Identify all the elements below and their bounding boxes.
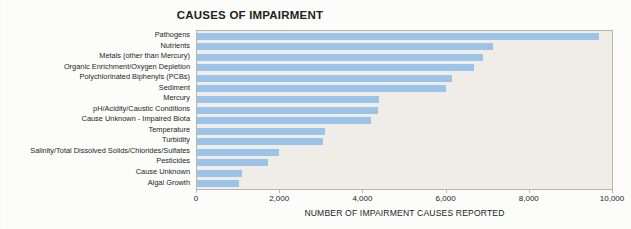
tick-label: 0 <box>194 194 198 203</box>
bar <box>197 43 493 50</box>
plot-area <box>196 30 613 190</box>
bar <box>197 96 379 103</box>
bar <box>197 117 371 124</box>
x-axis-title: NUMBER OF IMPAIRMENT CAUSES REPORTED <box>196 208 613 218</box>
tick-label: 2,000 <box>269 194 289 203</box>
tick-mark <box>446 190 447 193</box>
bar <box>197 75 452 82</box>
category-label: Turbidity <box>162 136 190 144</box>
category-label: Cause Unknown - Impaired Biota <box>82 115 190 123</box>
tick-mark <box>529 190 530 193</box>
category-label: Temperature <box>149 126 191 134</box>
bar <box>197 33 599 40</box>
category-label: pH/Acidity/Caustic Conditions <box>93 105 190 113</box>
bar <box>197 138 323 145</box>
tick-mark <box>196 190 197 193</box>
category-label: Mercury <box>163 94 190 102</box>
category-label: Polychlorinated Biphenyls (PCBs) <box>80 73 191 81</box>
bar <box>197 107 378 114</box>
category-label: Pesticides <box>156 157 190 165</box>
category-label: Metals (other than Mercury) <box>99 52 190 60</box>
bar <box>197 85 446 92</box>
bar <box>197 54 483 61</box>
tick-mark <box>362 190 363 193</box>
tick-mark <box>612 190 613 193</box>
bars-layer <box>197 31 612 189</box>
category-label: Pathogens <box>155 31 190 39</box>
bar <box>197 180 239 187</box>
chart-container: CAUSES OF IMPAIRMENT PathogensNutrientsM… <box>0 0 631 229</box>
bar <box>197 149 279 156</box>
category-label: Algal Growth <box>148 179 190 187</box>
tick-mark <box>279 190 280 193</box>
tick-label: 10,000 <box>600 194 624 203</box>
tick-label: 6,000 <box>436 194 456 203</box>
tick-label: 4,000 <box>352 194 372 203</box>
bar <box>197 159 268 166</box>
bar <box>197 170 242 177</box>
tick-label: 8,000 <box>519 194 539 203</box>
y-axis-category-labels: PathogensNutrientsMetals (other than Mer… <box>0 30 193 190</box>
category-label: Sediment <box>159 84 190 92</box>
category-label: Salinity/Total Dissolved Solids/Chloride… <box>30 147 190 155</box>
bar <box>197 128 325 135</box>
category-label: Nutrients <box>160 42 190 50</box>
category-label: Cause Unknown <box>136 168 190 176</box>
chart-title: CAUSES OF IMPAIRMENT <box>0 9 500 21</box>
category-label: Organic Enrichment/Oxygen Depletion <box>64 63 190 71</box>
bar <box>197 64 474 71</box>
